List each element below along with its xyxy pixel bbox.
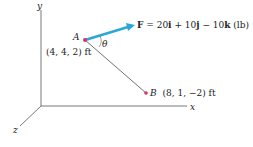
angle-arc [99,36,101,47]
point-A-coords: (4, 4, 2) ft [46,47,92,57]
angle-theta-label: θ [102,39,108,49]
point-B [144,91,148,95]
force-plus: + 10 [172,20,197,30]
z-axis [20,106,41,126]
force-expression: F = 20i + 10j − 10k (lb) [137,20,249,30]
point-B-coords: (8, 1, −2) ft [163,88,216,98]
y-axis-label: y [36,1,43,11]
force-arrowhead-icon [126,23,135,31]
point-B-text: B (8, 1, −2) ft [149,88,216,98]
force-unit: (lb) [230,20,249,30]
vector-diagram: y x z θ A (4, 4, 2) ft B (8, 1, −2) ft F… [0,0,253,147]
z-axis-label: z [12,125,18,135]
point-A [83,38,87,42]
point-A-label: A [72,32,80,42]
line-AB [85,40,146,93]
force-minus: − 10 [200,20,225,30]
point-B-label: B [149,88,157,98]
force-eq: = 20 [143,20,168,30]
x-axis-label: x [190,102,195,112]
